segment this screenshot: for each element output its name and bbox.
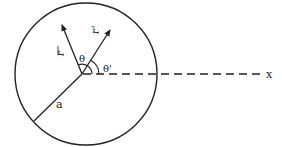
x-axis-label: x [266,68,273,81]
vector-r-prime-label: r' [88,25,102,35]
vector-r-arrow [62,25,82,74]
vector-r-label: r [53,49,67,57]
angle-theta-label: θ [79,53,85,64]
radius-label: a [56,98,63,111]
angle-theta-prime-label: θ' [103,63,112,74]
sphere-diagram: r r' θ θ' a x [0,0,282,147]
